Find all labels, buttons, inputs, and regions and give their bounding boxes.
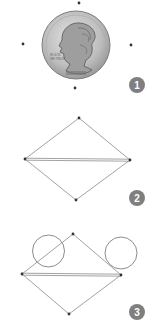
step-badge-1: 1 [129, 77, 145, 93]
step-number: 1 [134, 80, 140, 91]
point-left [24, 158, 27, 161]
instruction-diagram: IN GOD WE TRUST 1 2 [0, 0, 158, 328]
panel-3: 3 [21, 233, 145, 320]
rhombus-lines [22, 234, 121, 314]
point-left [21, 273, 24, 276]
panel-2: 2 [24, 117, 145, 206]
point-top [78, 117, 81, 120]
step-number: 2 [134, 193, 140, 204]
point-bottom [75, 199, 78, 202]
point-top [78, 2, 81, 5]
point-bottom [74, 87, 77, 90]
point-top [72, 233, 75, 236]
right-circle [105, 237, 137, 269]
point-bottom [68, 313, 71, 316]
point-left [22, 43, 25, 46]
step-number: 3 [134, 307, 140, 318]
rhombus-lines [25, 118, 130, 200]
step-badge-2: 2 [129, 190, 145, 206]
coin-quarter: IN GOD WE TRUST [42, 11, 110, 79]
point-right [120, 274, 123, 277]
svg-text:WE TRUST: WE TRUST [50, 57, 66, 61]
panel-1: IN GOD WE TRUST 1 [22, 2, 145, 93]
point-right [129, 159, 132, 162]
point-right [130, 44, 133, 47]
circles [33, 235, 138, 269]
step-badge-3: 3 [129, 304, 145, 320]
